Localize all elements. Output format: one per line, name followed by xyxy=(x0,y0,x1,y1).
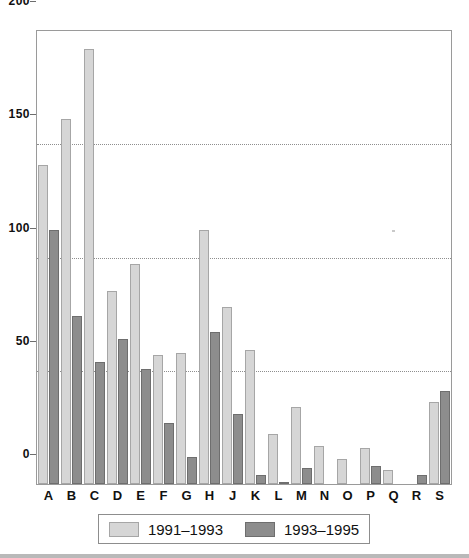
bar-K-1993-1995 xyxy=(256,475,266,484)
x-tick-label-N: N xyxy=(320,488,329,503)
bar-P-1993-1995 xyxy=(371,466,381,484)
bar-C-1993-1995 xyxy=(95,362,105,484)
x-tick-label-J: J xyxy=(229,488,236,503)
bar-E-1993-1995 xyxy=(141,369,151,485)
bar-B-1991-1993 xyxy=(61,119,71,484)
y-tick-mark-200 xyxy=(30,1,36,2)
bar-N-1991-1993 xyxy=(314,446,324,485)
bar-D-1993-1995 xyxy=(118,339,128,484)
scan-speck xyxy=(392,230,395,232)
bar-M-1993-1995 xyxy=(302,468,312,484)
bar-E-1991-1993 xyxy=(130,264,140,484)
bar-S-1991-1993 xyxy=(429,402,439,484)
bar-G-1993-1995 xyxy=(187,457,197,484)
x-tick-label-C: C xyxy=(90,488,99,503)
x-tick-label-P: P xyxy=(366,488,375,503)
legend-swatch-dark-gray xyxy=(245,522,275,537)
bar-K-1991-1993 xyxy=(245,350,255,484)
legend-label-1993-1995: 1993–1995 xyxy=(284,522,359,537)
bar-S-1993-1995 xyxy=(440,391,450,484)
x-tick-label-L: L xyxy=(275,488,283,503)
legend-item-1991-1993: 1991–1993 xyxy=(109,522,223,537)
bar-series-container xyxy=(37,31,451,484)
x-axis: ABCDEFGHJKLMNOPQRS xyxy=(37,486,451,508)
x-tick-label-B: B xyxy=(67,488,76,503)
y-tick-label-200: 200 xyxy=(8,0,30,7)
legend-swatch-light-gray xyxy=(109,522,139,537)
x-tick-label-F: F xyxy=(160,488,168,503)
y-tick-label-150: 150 xyxy=(8,108,30,120)
bar-F-1991-1993 xyxy=(153,355,163,484)
x-tick-label-O: O xyxy=(342,488,352,503)
x-tick-label-E: E xyxy=(136,488,145,503)
bar-D-1991-1993 xyxy=(107,291,117,484)
bar-J-1993-1995 xyxy=(233,414,243,484)
bar-J-1991-1993 xyxy=(222,307,232,484)
bar-L-1991-1993 xyxy=(268,434,278,484)
x-tick-label-A: A xyxy=(44,488,53,503)
bar-C-1991-1993 xyxy=(84,49,94,484)
x-tick-label-S: S xyxy=(435,488,444,503)
bar-O-1991-1993 xyxy=(337,459,347,484)
chart-legend: 1991–1993 1993–1995 xyxy=(98,514,370,544)
bar-L-1993-1995 xyxy=(279,482,289,484)
bar-A-1993-1995 xyxy=(49,230,59,484)
y-tick-label-50: 50 xyxy=(16,335,30,347)
bar-B-1993-1995 xyxy=(72,316,82,484)
bar-chart-figure: 050100150200 ABCDEFGHJKLMNOPQRS 1991–199… xyxy=(0,0,469,558)
x-tick-label-D: D xyxy=(113,488,122,503)
y-tick-label-0: 0 xyxy=(23,448,30,460)
x-tick-label-G: G xyxy=(181,488,191,503)
bar-Q-1991-1993 xyxy=(383,470,393,484)
bar-P-1991-1993 xyxy=(360,448,370,484)
bar-M-1991-1993 xyxy=(291,407,301,484)
x-tick-label-R: R xyxy=(412,488,421,503)
x-tick-label-M: M xyxy=(296,488,307,503)
bar-A-1991-1993 xyxy=(38,165,48,484)
x-tick-label-H: H xyxy=(205,488,214,503)
legend-label-1991-1993: 1991–1993 xyxy=(148,522,223,537)
bar-H-1991-1993 xyxy=(199,230,209,484)
y-axis: 050100150200 xyxy=(0,0,36,485)
page-bottom-rule xyxy=(0,554,469,558)
x-tick-label-K: K xyxy=(251,488,260,503)
bar-G-1991-1993 xyxy=(176,353,186,484)
bar-F-1993-1995 xyxy=(164,423,174,484)
bar-R-1993-1995 xyxy=(417,475,427,484)
y-tick-label-100: 100 xyxy=(8,222,30,234)
legend-item-1993-1995: 1993–1995 xyxy=(245,522,359,537)
x-tick-label-Q: Q xyxy=(388,488,398,503)
bar-H-1993-1995 xyxy=(210,332,220,484)
